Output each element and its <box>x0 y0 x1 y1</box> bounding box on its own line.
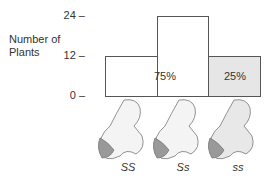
genotype-ss: ss <box>218 161 258 173</box>
y-tick-0: 0 – <box>45 89 85 101</box>
y-axis-label-line1: Number of <box>9 33 69 46</box>
percent-dominant: 75% <box>140 70 190 82</box>
genotype-Ss: Ss <box>163 161 203 173</box>
snapdragon-flowers-illustration <box>92 98 272 168</box>
y-tick-12: 12 – <box>45 49 85 61</box>
percent-recessive: 25% <box>210 70 260 82</box>
y-tick-24: 24 – <box>45 9 85 21</box>
genotype-SS: SS <box>108 161 148 173</box>
